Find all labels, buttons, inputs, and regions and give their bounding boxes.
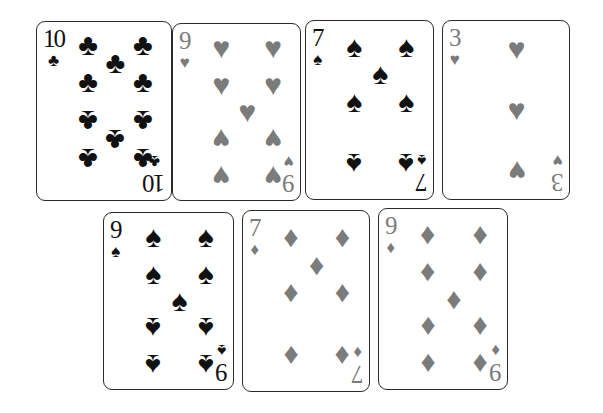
corner-index-top-left: 9♠ <box>110 218 122 260</box>
spade-pip-icon: ♠ <box>145 259 161 289</box>
playing-card-7-spades[interactable]: 7♠7♠♠♠♠♠♠♠♠ <box>305 20 434 200</box>
diamond-pip-icon: ♦ <box>420 349 435 379</box>
pip-field: ♠♠♠♠♠♠♠ <box>334 25 427 195</box>
pip-field: ♣♣♣♣♣♣♣♣♣♣ <box>66 26 164 196</box>
club-pip-icon: ♣ <box>133 67 153 97</box>
heart-pip-icon: ♥ <box>264 124 282 154</box>
spade-pip-icon: ♠ <box>198 313 214 343</box>
diamond-pip-icon: ♦ <box>283 277 298 307</box>
diamond-pip-icon: ♦ <box>420 256 435 286</box>
pip-field: ♥♥♥♥♥♥♥♥♥ <box>201 28 294 196</box>
pip-field: ♦♦♦♦♦♦♦♦♦ <box>407 213 500 385</box>
diamond-pip-icon: ♦ <box>472 349 487 379</box>
diamond-pip-icon: ♦ <box>472 256 487 286</box>
corner-index-top-left: 9♦ <box>385 214 397 256</box>
playing-card-10-clubs[interactable]: 10♣10♣♣♣♣♣♣♣♣♣♣♣ <box>36 21 172 201</box>
diamond-pip-icon: ♦ <box>335 341 350 371</box>
rank-label: 3 <box>449 26 461 50</box>
pip-field: ♠♠♠♠♠♠♠♠♠ <box>132 217 226 385</box>
diamond-pip-icon: ♦ <box>309 250 324 280</box>
heart-pip-icon: ♥ <box>212 124 230 154</box>
spade-pip-icon: ♠ <box>398 32 414 62</box>
club-pip-icon: ♣ <box>78 106 98 136</box>
club-pip-icon: ♣ <box>78 67 98 97</box>
club-pip-icon: ♣ <box>133 30 153 60</box>
heart-pip-icon: ♥ <box>212 33 230 63</box>
heart-pip-icon: ♥ <box>264 70 282 100</box>
pip-field: ♥♥♥ <box>471 25 563 195</box>
spade-pip-icon: ♠ <box>145 350 161 380</box>
spade-icon: ♠ <box>313 51 322 68</box>
rank-label: 7 <box>249 216 261 240</box>
heart-pip-icon: ♥ <box>508 34 526 64</box>
playing-card-3-hearts[interactable]: 3♥3♥♥♥♥ <box>442 20 570 200</box>
diamond-pip-icon: ♦ <box>420 312 435 342</box>
spade-pip-icon: ♠ <box>198 350 214 380</box>
playing-card-9-diamonds[interactable]: 9♦9♦♦♦♦♦♦♦♦♦♦ <box>378 208 508 390</box>
corner-index-top-left: 3♥ <box>449 26 461 68</box>
playing-card-9-hearts[interactable]: 9♥9♥♥♥♥♥♥♥♥♥♥ <box>172 23 301 201</box>
club-pip-icon: ♣ <box>133 106 153 136</box>
card-table: 10♣10♣♣♣♣♣♣♣♣♣♣♣9♥9♥♥♥♥♥♥♥♥♥♥7♠7♠♠♠♠♠♠♠♠… <box>0 0 603 413</box>
spade-pip-icon: ♠ <box>372 59 388 89</box>
spade-pip-icon: ♠ <box>198 222 214 252</box>
heart-pip-icon: ♥ <box>212 70 230 100</box>
spade-pip-icon: ♠ <box>346 149 362 179</box>
diamond-pip-icon: ♦ <box>420 219 435 249</box>
diamond-pip-icon: ♦ <box>283 341 298 371</box>
spade-pip-icon: ♠ <box>145 313 161 343</box>
heart-pip-icon: ♥ <box>264 161 282 191</box>
corner-index-top-left: 10♣ <box>43 27 64 69</box>
spade-pip-icon: ♠ <box>145 222 161 252</box>
club-pip-icon: ♣ <box>106 48 126 78</box>
corner-index-top-left: 7♦ <box>249 216 261 258</box>
heart-icon: ♥ <box>450 51 460 68</box>
heart-pip-icon: ♥ <box>212 161 230 191</box>
diamond-pip-icon: ♦ <box>283 222 298 252</box>
spade-pip-icon: ♠ <box>346 32 362 62</box>
club-pip-icon: ♣ <box>106 125 126 155</box>
spade-pip-icon: ♠ <box>398 87 414 117</box>
rank-label: 9 <box>110 218 122 242</box>
spade-pip-icon: ♠ <box>346 87 362 117</box>
corner-index-top-left: 9♥ <box>179 29 191 71</box>
club-icon: ♣ <box>48 52 59 69</box>
heart-icon: ♥ <box>180 54 190 71</box>
pip-field: ♦♦♦♦♦♦♦ <box>271 215 363 387</box>
diamond-icon: ♦ <box>386 239 395 256</box>
corner-index-top-left: 7♠ <box>312 26 324 68</box>
rank-label: 10 <box>43 27 64 51</box>
heart-pip-icon: ♥ <box>238 97 256 127</box>
diamond-pip-icon: ♦ <box>335 277 350 307</box>
diamond-icon: ♦ <box>250 241 259 258</box>
spade-pip-icon: ♠ <box>398 149 414 179</box>
spade-pip-icon: ♠ <box>198 259 214 289</box>
rank-label: 7 <box>312 26 324 50</box>
diamond-pip-icon: ♦ <box>472 219 487 249</box>
diamond-pip-icon: ♦ <box>472 312 487 342</box>
diamond-pip-icon: ♦ <box>335 222 350 252</box>
rank-label: 9 <box>179 29 191 53</box>
playing-card-7-diamonds[interactable]: 7♦7♦♦♦♦♦♦♦♦ <box>242 210 370 392</box>
club-pip-icon: ♣ <box>78 144 98 174</box>
spade-icon: ♠ <box>111 243 120 260</box>
heart-pip-icon: ♥ <box>508 156 526 186</box>
diamond-pip-icon: ♦ <box>446 284 461 314</box>
playing-card-9-spades[interactable]: 9♠9♠♠♠♠♠♠♠♠♠♠ <box>103 212 234 390</box>
club-pip-icon: ♣ <box>133 144 153 174</box>
club-pip-icon: ♣ <box>78 30 98 60</box>
heart-pip-icon: ♥ <box>508 95 526 125</box>
heart-pip-icon: ♥ <box>264 33 282 63</box>
rank-label: 9 <box>385 214 397 238</box>
spade-pip-icon: ♠ <box>172 286 188 316</box>
